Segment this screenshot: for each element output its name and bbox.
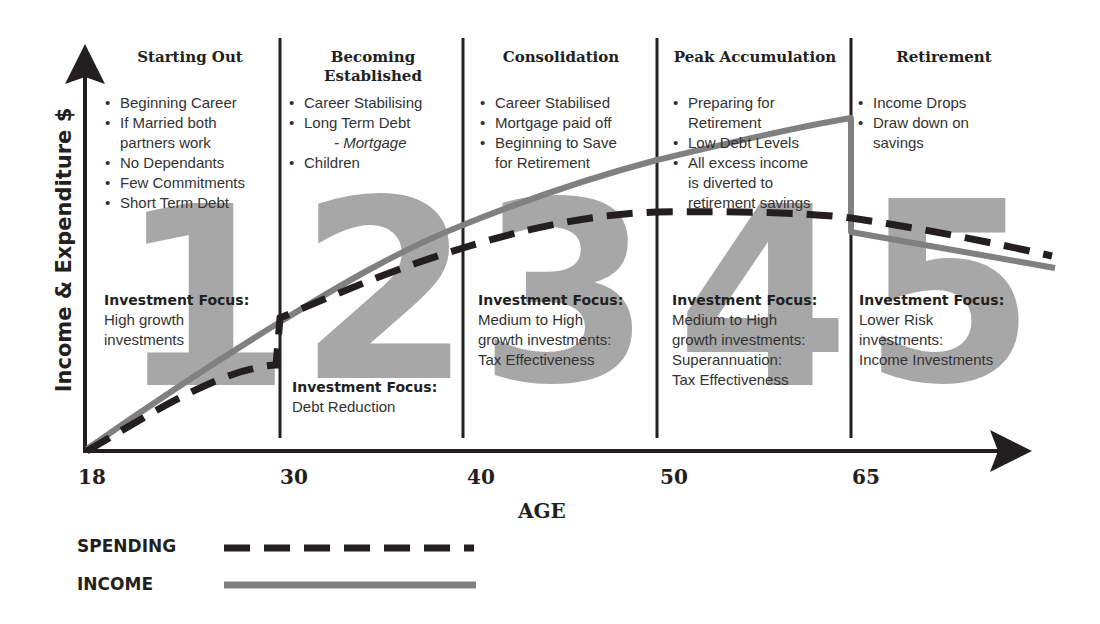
bullet: Low Debt Levels	[672, 133, 852, 153]
x-tick-30: 30	[280, 465, 308, 489]
stage-1-investment-focus: Investment Focus: High growth investment…	[104, 290, 282, 350]
legend-spending-label: SPENDING	[77, 536, 176, 556]
bullet: Career Stabilising	[288, 93, 466, 113]
stage-4-bullets: Preparing forRetirement Low Debt Levels …	[672, 93, 852, 213]
bullet: Children	[288, 153, 466, 173]
stage-title-retirement: Retirement	[854, 48, 1034, 67]
focus-label: Investment Focus:	[292, 377, 470, 397]
x-tick-40: 40	[467, 465, 495, 489]
bullet: Draw down onsavings	[857, 113, 1057, 153]
bullet: Preparing forRetirement	[672, 93, 852, 133]
bullet: Beginning Career	[104, 93, 282, 113]
stage-5-bullets: Income Drops Draw down onsavings	[857, 93, 1057, 153]
stage-2-bullets: Career Stabilising Long Term Debt- Mortg…	[288, 93, 466, 173]
bullet: Short Term Debt	[104, 193, 282, 213]
x-tick-50: 50	[660, 465, 688, 489]
bullet: Mortgage paid off	[479, 113, 659, 133]
x-tick-65: 65	[852, 465, 880, 489]
x-axis-label: AGE	[518, 499, 566, 523]
stage-1-bullets: Beginning Career If Married bothpartners…	[104, 93, 282, 213]
y-axis-label: Income & Expenditure $	[52, 108, 76, 393]
bullet: Career Stabilised	[479, 93, 659, 113]
stage-3-bullets: Career Stabilised Mortgage paid off Begi…	[479, 93, 659, 173]
stage-4-investment-focus: Investment Focus: Medium to High growth …	[672, 290, 850, 390]
stage-title-peak-accumulation: Peak Accumulation	[660, 48, 850, 67]
x-tick-18: 18	[78, 465, 106, 489]
bullet: No Dependants	[104, 153, 282, 173]
stage-title-becoming-established: Becoming Established	[283, 48, 463, 86]
focus-label: Investment Focus:	[859, 290, 1059, 310]
bullet: Beginning to Savefor Retirement	[479, 133, 659, 173]
stage-3-investment-focus: Investment Focus: Medium to High growth …	[478, 290, 656, 370]
legend-income-label: INCOME	[77, 574, 153, 594]
bullet: All excess incomeis diverted toretiremen…	[672, 153, 852, 213]
bullet: Long Term Debt- Mortgage	[288, 113, 466, 153]
focus-label: Investment Focus:	[478, 290, 656, 310]
stage-2-investment-focus: Investment Focus: Debt Reduction	[292, 377, 470, 417]
focus-label: Investment Focus:	[104, 290, 282, 310]
bullet: Income Drops	[857, 93, 1057, 113]
bullet: Few Commitments	[104, 173, 282, 193]
stage-title-consolidation: Consolidation	[466, 48, 656, 67]
bullet: If Married bothpartners work	[104, 113, 282, 153]
stage-5-investment-focus: Investment Focus: Lower Risk investments…	[859, 290, 1059, 370]
focus-label: Investment Focus:	[672, 290, 850, 310]
stage-title-starting-out: Starting Out	[100, 48, 280, 67]
